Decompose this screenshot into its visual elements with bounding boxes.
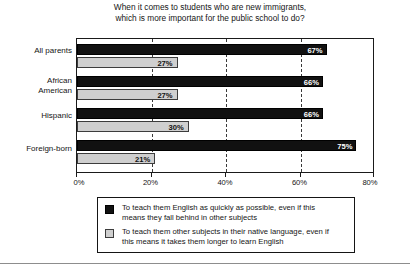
bar-value-label: 66% [304,109,319,120]
x-axis: 0% 20% 40% 60% 80% [76,173,374,193]
xtick-mark-20 [151,173,152,177]
bar-all-parents-english[interactable]: 67% [77,44,327,55]
bar-value-label: 30% [169,122,184,133]
bar-group-all-parents: 67% 27% [77,44,373,72]
category-label-line-1: African [0,76,72,86]
legend-label-english: To teach them English as quickly as poss… [122,203,348,224]
bar-value-label: 75% [337,141,352,152]
legend-entry-native[interactable]: To teach them other subjects in their na… [105,228,348,250]
bar-foreign-born-english[interactable]: 75% [77,140,356,151]
chart-title-line-2: which is more important for the public s… [80,13,340,24]
legend-label-line-2: means they fall behind in other subjects [122,213,348,223]
category-label-line-2: American [0,86,72,96]
legend-label-line-2: this means it takes them longer to learn… [122,237,348,247]
category-label-line-1: All parents [0,46,72,56]
legend-label-native: To teach them other subjects in their na… [122,227,348,248]
legend: To teach them English as quickly as poss… [97,197,355,253]
legend-label-line-1: To teach them English as quickly as poss… [122,203,348,213]
legend-swatch-light-icon [105,229,114,238]
bar-african-american-native[interactable]: 27% [77,89,178,100]
bar-value-label: 27% [157,58,172,69]
bar-value-label: 21% [135,154,150,165]
bar-group-hispanic: 66% 30% [77,108,373,136]
legend-label-line-1: To teach them other subjects in their na… [122,227,348,237]
category-label-hispanic: Hispanic [0,111,72,121]
category-axis: All parents African American Hispanic Fo… [0,38,72,173]
chart-title: When it comes to students who are new im… [80,2,340,24]
xtick-label-20: 20% [143,178,158,187]
category-label-african-american: African American [0,76,72,95]
bar-group-african-american: 66% 27% [77,76,373,104]
category-label-line-1: Hispanic [0,111,72,121]
xtick-mark-60 [300,173,301,177]
bar-hispanic-native[interactable]: 30% [77,121,189,132]
category-label-foreign-born: Foreign-born [0,144,72,154]
plot-area: 67% 27% 66% 27% 66% [76,38,374,173]
bar-value-label: 27% [157,90,172,101]
bar-value-label: 67% [307,45,322,56]
xtick-label-80: 80% [362,178,377,187]
legend-swatch-dark-icon [105,205,114,214]
xtick-label-0: 0% [74,178,85,187]
bar-hispanic-english[interactable]: 66% [77,108,323,119]
legend-entry-english[interactable]: To teach them English as quickly as poss… [105,204,348,226]
chart-title-line-1: When it comes to students who are new im… [80,2,340,13]
xtick-mark-0 [76,173,77,177]
xtick-label-60: 60% [292,178,307,187]
bar-group-foreign-born: 75% 21% [77,140,373,168]
category-label-all-parents: All parents [0,46,72,56]
xtick-label-40: 40% [217,178,232,187]
xtick-mark-40 [225,173,226,177]
bar-value-label: 66% [304,77,319,88]
bar-all-parents-native[interactable]: 27% [77,57,178,68]
xtick-mark-80 [373,173,374,177]
category-label-line-1: Foreign-born [0,144,72,154]
page-divider [0,263,410,264]
bar-african-american-english[interactable]: 66% [77,76,323,87]
bar-foreign-born-native[interactable]: 21% [77,153,155,164]
